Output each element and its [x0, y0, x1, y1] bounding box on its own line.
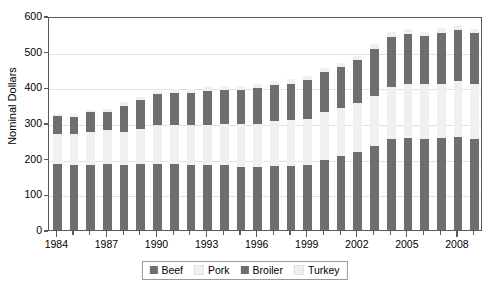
bar-segment-turkey	[103, 109, 112, 112]
bar-segment-broiler	[103, 112, 112, 131]
bar-segment-turkey	[70, 114, 79, 116]
x-tick-mark	[273, 231, 274, 235]
bar-segment-beef	[303, 165, 312, 230]
bar-segment-beef	[220, 165, 229, 230]
bar-segment-broiler	[187, 93, 196, 126]
bar-segment-broiler	[170, 93, 179, 124]
x-tick-label: 1993	[195, 238, 218, 250]
bar-segment-pork	[237, 124, 246, 166]
bar-2000	[320, 16, 329, 230]
bar-segment-beef	[253, 167, 262, 230]
bar-1993	[203, 16, 212, 230]
bar-1989	[136, 16, 145, 230]
bar-segment-turkey	[53, 114, 62, 116]
legend-item-turkey: Turkey	[294, 264, 340, 276]
bar-1986	[86, 16, 95, 230]
legend-swatch-broiler	[241, 266, 249, 274]
bar-1984	[53, 16, 62, 230]
bar-segment-beef	[337, 156, 346, 230]
bar-segment-turkey	[187, 89, 196, 93]
y-tick-label: 200	[12, 153, 42, 165]
bar-segment-turkey	[287, 79, 296, 83]
bar-segment-broiler	[470, 33, 479, 83]
bar-segment-broiler	[53, 116, 62, 134]
y-tick-label: 100	[12, 188, 42, 200]
x-tick-label: 2008	[445, 238, 468, 250]
y-tick-label: 500	[12, 46, 42, 58]
bar-segment-pork	[287, 120, 296, 166]
bar-1995	[237, 16, 246, 230]
bar-segment-pork	[437, 84, 446, 138]
bar-2002	[353, 16, 362, 230]
x-tick-mark	[156, 231, 157, 237]
bar-segment-pork	[454, 81, 463, 137]
bar-segment-broiler	[237, 90, 246, 125]
stacked-bar-chart: Nominal Dollars 0100200300400500600 1984…	[0, 0, 489, 286]
y-tick-label: 300	[12, 117, 42, 129]
bar-segment-beef	[320, 160, 329, 230]
bar-segment-beef	[370, 146, 379, 230]
bar-segment-broiler	[70, 117, 79, 135]
bar-segment-turkey	[303, 76, 312, 80]
bar-segment-turkey	[454, 25, 463, 30]
bar-series-group	[49, 18, 481, 230]
bar-segment-broiler	[370, 49, 379, 96]
bar-segment-broiler	[420, 36, 429, 84]
bar-segment-turkey	[337, 63, 346, 67]
x-tick-mark	[373, 231, 374, 235]
legend-swatch-pork	[194, 265, 204, 275]
x-tick-mark	[206, 231, 207, 237]
bar-segment-pork	[337, 108, 346, 156]
bar-segment-pork	[70, 134, 79, 164]
bar-1996	[253, 16, 262, 230]
x-tick-label: 1984	[45, 238, 68, 250]
bar-segment-pork	[86, 132, 95, 165]
bar-1990	[153, 16, 162, 230]
x-tick-mark	[106, 231, 107, 237]
x-tick-mark	[473, 231, 474, 235]
bar-segment-pork	[120, 132, 129, 166]
bar-segment-pork	[53, 134, 62, 165]
bar-segment-turkey	[153, 91, 162, 95]
x-axis-tick-labels: 198419871990199319961999200220052008	[0, 238, 489, 252]
bar-segment-pork	[136, 129, 145, 164]
bar-segment-turkey	[470, 29, 479, 34]
bar-segment-pork	[220, 124, 229, 165]
bar-segment-pork	[203, 125, 212, 165]
bar-segment-beef	[53, 164, 62, 230]
legend-swatch-beef	[149, 266, 157, 274]
bar-segment-beef	[404, 138, 413, 230]
bar-segment-pork	[353, 103, 362, 152]
x-axis-ticks	[48, 231, 482, 237]
bar-segment-broiler	[454, 30, 463, 81]
bar-segment-turkey	[120, 102, 129, 106]
x-tick-mark	[456, 231, 457, 237]
legend-label-beef: Beef	[161, 264, 183, 276]
bar-2001	[337, 16, 346, 230]
y-tick-label: 0	[12, 224, 42, 236]
x-tick-mark	[440, 231, 441, 235]
x-tick-mark	[56, 231, 57, 237]
bar-segment-turkey	[253, 84, 262, 88]
bar-segment-beef	[237, 167, 246, 230]
bar-2003	[370, 16, 379, 230]
legend-label-turkey: Turkey	[308, 264, 340, 276]
bar-segment-broiler	[404, 34, 413, 84]
bar-1994	[220, 16, 229, 230]
x-tick-mark	[239, 231, 240, 235]
x-tick-label: 1987	[95, 238, 118, 250]
x-tick-mark	[423, 231, 424, 235]
bar-segment-broiler	[120, 106, 129, 132]
bar-segment-pork	[170, 125, 179, 164]
x-tick-mark	[306, 231, 307, 237]
bar-segment-pork	[270, 121, 279, 166]
x-tick-mark	[323, 231, 324, 235]
bar-segment-pork	[420, 84, 429, 139]
bar-1988	[120, 16, 129, 230]
bar-segment-turkey	[387, 32, 396, 37]
bar-segment-turkey	[86, 110, 95, 113]
bar-2007	[437, 16, 446, 230]
bar-1998	[287, 16, 296, 230]
legend-item-beef: Beef	[149, 264, 183, 276]
y-tick-label: 400	[12, 81, 42, 93]
